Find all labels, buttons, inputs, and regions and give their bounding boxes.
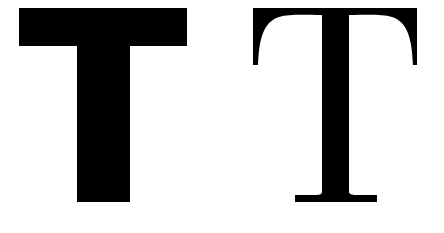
sans-t-stem bbox=[77, 45, 130, 202]
serif-t-glyph: T bbox=[222, 0, 444, 233]
serif-t-shape bbox=[222, 0, 444, 233]
serif-t-outline bbox=[253, 8, 417, 202]
sans-t-crossbar bbox=[19, 8, 187, 46]
sans-serif-t-shape bbox=[0, 0, 222, 233]
sans-serif-t-glyph: T bbox=[0, 0, 222, 233]
